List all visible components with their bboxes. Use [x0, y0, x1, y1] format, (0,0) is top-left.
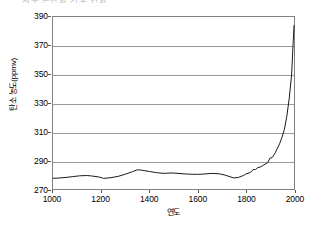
x-axis-ticks: 100012001400160018002000 [52, 190, 295, 208]
y-tick-label: 330 [22, 99, 48, 108]
y-tick-mark [48, 190, 51, 191]
series-line-co2 [53, 17, 294, 189]
y-tick-label: 310 [22, 128, 48, 137]
y-tick-label: 390 [22, 12, 48, 21]
y-tick-label: 290 [22, 157, 48, 166]
x-tick-mark [52, 190, 53, 193]
x-tick-mark [149, 190, 150, 193]
x-tick-label: 1600 [178, 194, 218, 204]
y-axis-title: 탄소 농도(ppmv) [9, 40, 18, 130]
y-tick-mark [48, 74, 51, 75]
y-axis-ticks: 270290310330350370390 [18, 16, 48, 190]
plot-area [52, 16, 295, 190]
clipped-title-fragment: 지구 온난화 기후 변화 [22, 0, 182, 3]
y-tick-mark [48, 45, 51, 46]
y-tick-label: 370 [22, 41, 48, 50]
y-tick-mark [48, 103, 51, 104]
x-tick-mark [198, 190, 199, 193]
co2-concentration-chart: 지구 온난화 기후 변화 탄소 농도(ppmv) 270290310330350… [0, 0, 312, 234]
x-tick-label: 1800 [226, 194, 266, 204]
x-tick-mark [295, 190, 296, 193]
y-tick-mark [48, 16, 51, 17]
x-tick-mark [246, 190, 247, 193]
y-tick-mark [48, 161, 51, 162]
y-tick-label: 350 [22, 70, 48, 79]
x-tick-label: 1000 [32, 194, 72, 204]
x-tick-label: 2000 [275, 194, 312, 204]
x-tick-label: 1200 [81, 194, 121, 204]
x-axis-title: 연도 [52, 208, 295, 218]
x-tick-label: 1400 [129, 194, 169, 204]
x-tick-mark [101, 190, 102, 193]
y-tick-mark [48, 132, 51, 133]
